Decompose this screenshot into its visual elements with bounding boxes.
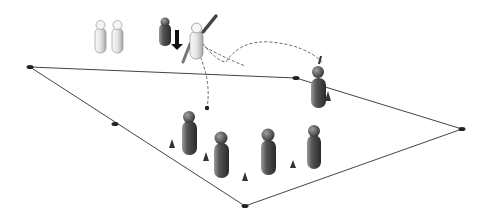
cone-icon bbox=[290, 160, 296, 168]
bowler bbox=[311, 56, 326, 108]
fielder-4 bbox=[307, 125, 321, 169]
cone-icon bbox=[203, 152, 209, 161]
waiting-batter-2 bbox=[112, 21, 123, 54]
ball-landing-marker bbox=[205, 106, 209, 110]
field-boundary bbox=[30, 67, 462, 206]
batter bbox=[183, 16, 216, 62]
cone-icon bbox=[242, 172, 248, 181]
fielder-2 bbox=[214, 132, 229, 179]
boundary-markers bbox=[27, 65, 466, 208]
stumps bbox=[171, 30, 183, 50]
fielder-1 bbox=[182, 111, 197, 155]
bat-icon bbox=[183, 44, 190, 62]
waiting-batter-1 bbox=[95, 21, 106, 54]
fielder-3 bbox=[261, 129, 276, 176]
drill-diagram bbox=[0, 0, 490, 217]
field-diagram-canvas bbox=[0, 0, 490, 217]
raised-bat-icon bbox=[203, 16, 216, 32]
wicketkeeper bbox=[159, 18, 171, 47]
cone-icon bbox=[169, 139, 175, 148]
